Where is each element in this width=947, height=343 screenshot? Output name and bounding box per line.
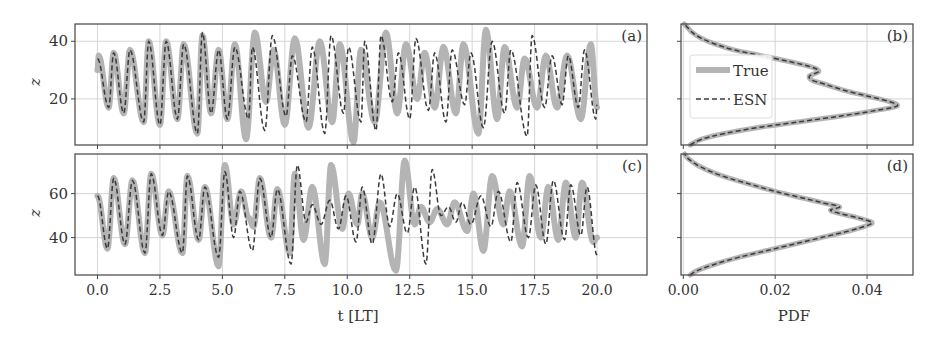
- y-tick-label: 40: [49, 32, 68, 50]
- x-tick-label: 5.0: [211, 282, 233, 298]
- y-axis-label-c: z: [26, 209, 44, 218]
- x-tick-label: 15.0: [457, 282, 488, 298]
- legend: True ESN: [690, 55, 772, 118]
- panel-label-a: (a): [621, 27, 642, 45]
- x-tick-label: 12.5: [394, 282, 425, 298]
- x-tick-label: 0.04: [851, 282, 882, 298]
- x-tick-label: 17.5: [519, 282, 550, 298]
- y-tick-label: 20: [49, 90, 68, 108]
- panel-b: (b) True ESN: [677, 24, 913, 149]
- figure: 2040 (a) z (b) True ESN 40600.02.55.07.5…: [0, 0, 947, 343]
- x-tick-label: 20.0: [581, 282, 612, 298]
- panel-c: 40600.02.55.07.510.012.515.017.520.0 (c)…: [26, 154, 647, 325]
- panel-label-d: (d): [887, 157, 908, 175]
- y-tick-label: 60: [49, 185, 68, 203]
- legend-true-label: True: [733, 62, 769, 80]
- x-tick-label: 0.0: [86, 282, 108, 298]
- panel-d: 0.000.020.04 (d) PDF: [668, 154, 913, 325]
- x-tick-label: 2.5: [149, 282, 171, 298]
- legend-esn-label: ESN: [733, 91, 767, 109]
- x-tick-label: 7.5: [274, 282, 296, 298]
- panel-label-c: (c): [622, 157, 642, 175]
- y-axis-label-a: z: [26, 78, 44, 87]
- y-tick-label: 40: [49, 229, 68, 247]
- x-axis-label-time: t [LT]: [337, 307, 378, 325]
- panel-a: 2040 (a) z: [26, 24, 647, 149]
- x-tick-label: 0.02: [760, 282, 791, 298]
- x-axis-label-pdf: PDF: [778, 307, 811, 325]
- x-tick-label: 10.0: [332, 282, 363, 298]
- x-tick-label: 0.00: [668, 282, 699, 298]
- panel-label-b: (b): [887, 27, 908, 45]
